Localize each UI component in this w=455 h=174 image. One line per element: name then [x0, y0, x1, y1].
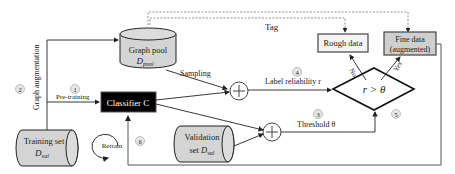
diagram-canvas: Tag Graph pool Dpool Rough data Fine dat… [0, 0, 455, 174]
pre-training-label: Pre-training [56, 93, 90, 101]
graph-pool-title: Graph pool [129, 45, 168, 55]
fine-data-node: Fine data (augmented) [384, 32, 436, 55]
svg-text:Retrain: Retrain [102, 142, 123, 150]
plus-node-top [230, 82, 248, 100]
classifier-node: Classifier C [101, 92, 156, 112]
svg-text:Validation: Validation [185, 132, 221, 142]
plus-node-bottom [263, 123, 281, 141]
svg-text:3: 3 [316, 111, 319, 118]
graph-augmentation-edge [47, 40, 118, 130]
label-reliability-label: Label reliability r [265, 77, 321, 86]
svg-text:5: 5 [394, 111, 397, 118]
retrain-loop-icon: Retrain [92, 134, 123, 158]
sampling-label: Sampling [180, 69, 211, 78]
graph-pool-node: Graph pool Dpool [120, 28, 176, 68]
decision-node: r > θ [333, 68, 414, 110]
validation-set-node: Validation set Dval [174, 126, 234, 162]
svg-text:1: 1 [73, 86, 76, 93]
svg-text:Classifier C: Classifier C [107, 98, 150, 108]
yes-label: Yes [392, 60, 404, 73]
threshold-label: Threshold θ [297, 120, 335, 129]
svg-text:r > θ: r > θ [363, 83, 386, 95]
svg-text:2: 2 [18, 86, 21, 93]
graph-augmentation-label: Graph augmentation [32, 44, 41, 110]
tag-label: Tag [265, 22, 279, 32]
svg-text:Training set: Training set [24, 136, 65, 146]
svg-text:Rough data: Rough data [324, 38, 363, 48]
svg-text:Fine data: Fine data [395, 35, 425, 44]
rough-data-node: Rough data [318, 34, 368, 52]
training-set-node: Training set Dval [16, 130, 78, 166]
svg-text:(augmented): (augmented) [390, 45, 431, 54]
